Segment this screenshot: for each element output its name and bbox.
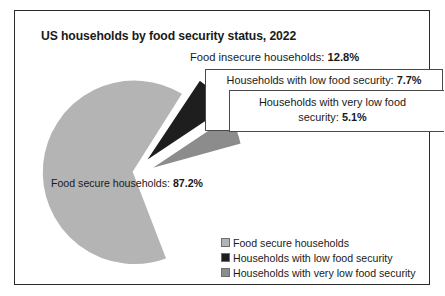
legend-label-very-low-food-security: Households with very low food security xyxy=(233,267,416,279)
callout-food-insecure-text: Food insecure households: xyxy=(190,51,327,63)
pie-label-food-secure-text: Food secure households: xyxy=(51,177,173,189)
callout-very-low-food-security: Households with very low food security: … xyxy=(230,95,435,125)
legend-swatch-very-low-food-security xyxy=(221,268,230,277)
callout-food-insecure: Food insecure households: 12.8% xyxy=(190,51,359,63)
callout-very-low-value: 5.1% xyxy=(342,111,367,123)
legend-item-very-low-food-security[interactable]: Households with very low food security xyxy=(221,265,416,280)
legend-swatch-low-food-security xyxy=(221,253,230,262)
legend-item-low-food-security[interactable]: Households with low food security xyxy=(221,250,416,265)
legend-swatch-food-secure xyxy=(221,238,230,247)
pie-label-food-secure: Food secure households: 87.2% xyxy=(51,177,203,189)
callout-low-food-security: Households with low food security: 7.7% xyxy=(206,74,442,86)
pie-label-food-secure-value: 87.2% xyxy=(173,177,203,189)
pie-slice-food-secure[interactable] xyxy=(42,79,184,265)
callout-low-food-security-value: 7.7% xyxy=(397,74,422,86)
callout-very-low-line1: Households with very low food xyxy=(259,96,406,108)
legend-item-food-secure[interactable]: Food secure households xyxy=(221,235,416,250)
callout-box-very-low-food-security: Households with very low food security: … xyxy=(229,90,444,132)
callout-box-low-food-security: Households with low food security: 7.7% … xyxy=(205,69,443,131)
legend-label-food-secure: Food secure households xyxy=(233,237,349,249)
legend-label-low-food-security: Households with low food security xyxy=(233,252,393,264)
chart-frame: US households by food security status, 2… xyxy=(14,10,430,285)
callout-very-low-line2: security: xyxy=(298,111,342,123)
callout-food-insecure-value: 12.8% xyxy=(327,51,359,63)
callout-low-food-security-text: Households with low food security: xyxy=(227,74,397,86)
chart-legend: Food secure households Households with l… xyxy=(221,235,416,280)
